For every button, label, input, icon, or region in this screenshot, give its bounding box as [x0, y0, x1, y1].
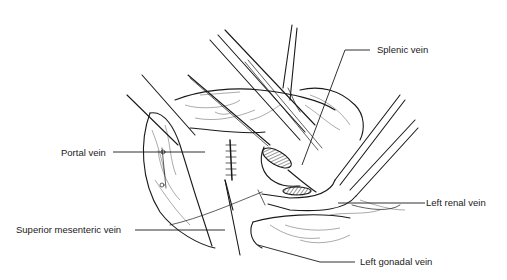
surgical-illustration: Splenic vein Portal vein Left renal vein… — [0, 0, 507, 280]
left-organ-lobe — [143, 113, 215, 248]
label-splenic-vein: Splenic vein — [377, 44, 428, 55]
suture-thread — [170, 192, 262, 225]
anatomy-drawing — [0, 0, 507, 280]
pancreas-band — [175, 88, 363, 140]
label-left-renal-vein: Left renal vein — [426, 197, 486, 208]
label-superior-mesenteric-vein: Superior mesenteric vein — [16, 224, 121, 235]
label-left-gonadal-vein: Left gonadal vein — [360, 256, 432, 267]
suture-line — [225, 140, 240, 255]
vessel-openings — [260, 144, 316, 195]
label-portal-vein: Portal vein — [61, 147, 106, 158]
lower-tissue — [251, 200, 405, 248]
